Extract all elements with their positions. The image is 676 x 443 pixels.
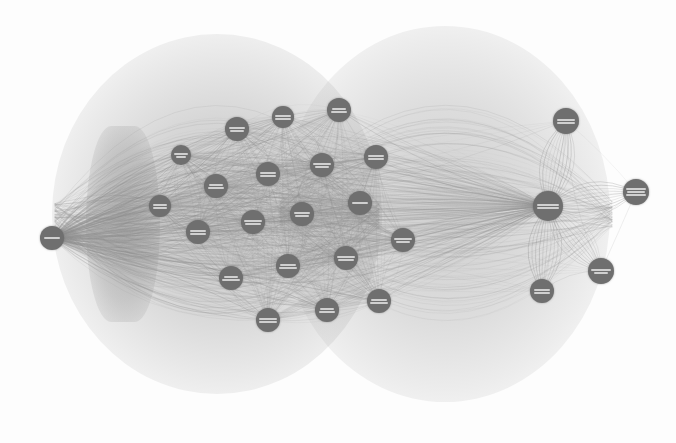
node-label-line (153, 204, 166, 206)
graph-node[interactable] (530, 279, 554, 303)
node-label-line (626, 188, 646, 190)
node-label-line (331, 111, 346, 113)
graph-node[interactable] (225, 117, 249, 141)
graph-node[interactable] (186, 220, 210, 244)
graph-node[interactable] (171, 145, 191, 165)
node-label-line (222, 279, 240, 281)
graph-node[interactable] (40, 226, 64, 250)
edge-layer (0, 0, 676, 443)
node-label-line (176, 156, 187, 158)
node-label-line (319, 311, 334, 313)
graph-node[interactable] (241, 210, 265, 234)
node-label-line (260, 172, 276, 174)
graph-node[interactable] (149, 195, 171, 217)
graph-node[interactable] (334, 246, 358, 270)
graph-node[interactable] (553, 108, 579, 134)
node-label-line (208, 187, 223, 189)
node-label-line (627, 191, 645, 193)
node-label-line (259, 318, 276, 320)
node-label-line (224, 276, 238, 278)
node-label-line (332, 108, 345, 110)
graph-node[interactable] (391, 228, 415, 252)
node-label-line (368, 158, 385, 160)
node-label-line (626, 194, 646, 196)
graph-node[interactable] (348, 191, 372, 215)
node-label-line (337, 256, 356, 258)
graph-node[interactable] (310, 153, 334, 177)
node-label-line (209, 184, 223, 186)
node-label-line (153, 207, 166, 209)
node-label-line (534, 289, 550, 291)
node-label-line (260, 175, 276, 177)
graph-node[interactable] (290, 202, 314, 226)
node-label-line (534, 292, 549, 294)
graph-node[interactable] (533, 191, 563, 221)
node-label-line (352, 202, 368, 204)
node-label-line (230, 130, 244, 132)
node-label-line (371, 299, 386, 301)
node-label-line (594, 272, 608, 274)
node-label-line (591, 269, 611, 271)
node-label-line (280, 264, 296, 266)
graph-node[interactable] (367, 289, 391, 313)
node-label-line (259, 321, 276, 323)
graph-node[interactable] (276, 254, 300, 278)
node-label-line (338, 259, 354, 261)
graph-node[interactable] (327, 98, 351, 122)
node-label-line (275, 118, 292, 120)
node-label-line (537, 207, 559, 209)
graph-node[interactable] (256, 162, 280, 186)
node-label-line (396, 241, 409, 243)
graph-node[interactable] (315, 298, 339, 322)
network-graph-canvas (0, 0, 676, 443)
node-label-line (295, 215, 309, 217)
node-label-line (394, 238, 412, 240)
node-label-line (294, 212, 310, 214)
graph-node[interactable] (623, 179, 649, 205)
node-label-line (244, 220, 262, 222)
node-label-line (557, 122, 574, 124)
node-label-line (320, 308, 334, 310)
node-label-line (315, 166, 329, 168)
node-label-line (313, 163, 330, 165)
node-label-line (557, 119, 575, 121)
node-label-line (370, 302, 388, 304)
node-label-line (174, 153, 189, 155)
node-label-line (190, 230, 205, 232)
node-label-line (229, 127, 246, 129)
graph-node[interactable] (364, 145, 388, 169)
node-label-line (537, 204, 560, 206)
graph-node[interactable] (219, 266, 243, 290)
node-label-line (279, 267, 297, 269)
graph-node[interactable] (256, 308, 280, 332)
node-label-line (44, 237, 60, 239)
node-label-line (245, 223, 260, 225)
graph-node[interactable] (272, 106, 294, 128)
node-label-line (275, 115, 291, 117)
graph-node[interactable] (204, 174, 228, 198)
node-label-line (368, 155, 384, 157)
graph-node[interactable] (588, 258, 614, 284)
node-label-line (190, 233, 206, 235)
